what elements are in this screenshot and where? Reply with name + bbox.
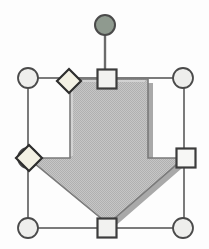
down-arrow-shape[interactable] — [28, 79, 184, 224]
resize-handle-middle-right[interactable] — [177, 149, 196, 168]
resize-handle-bottom-center[interactable] — [98, 219, 117, 238]
shape-stage — [0, 0, 209, 249]
rotation-handle[interactable] — [95, 15, 115, 35]
resize-handle-bottom-right[interactable] — [173, 218, 193, 238]
resize-handle-top-right[interactable] — [173, 68, 193, 88]
drawing-canvas[interactable] — [0, 0, 209, 249]
selection-overlay — [0, 0, 209, 249]
resize-handle-top-left[interactable] — [18, 68, 38, 88]
resize-handle-top-center[interactable] — [98, 70, 117, 89]
resize-handle-bottom-left[interactable] — [18, 218, 38, 238]
